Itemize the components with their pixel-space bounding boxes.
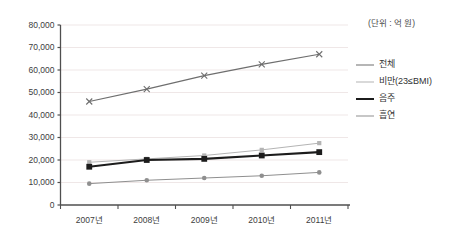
legend-line-swatch (356, 77, 374, 87)
y-axis-tick-label: 60,000 (9, 65, 55, 75)
legend-label: 음주 (379, 94, 395, 103)
x-axis-tick-label: 2010년 (232, 213, 292, 225)
chart-legend: 전체비만(23≤BMI)음주흡연 (356, 56, 456, 124)
series-0 (86, 51, 322, 104)
data-point-marker (317, 141, 321, 145)
chart-container: (단위 : 억 원) 80,00070,00060,00050,00040,00… (0, 0, 459, 233)
series-line (89, 54, 319, 101)
y-axis-tick-label: 10,000 (9, 177, 55, 187)
y-axis-tick-label: 40,000 (9, 110, 55, 120)
data-point-marker (259, 153, 265, 159)
series-3 (87, 170, 322, 186)
data-point-marker (260, 148, 264, 152)
data-point-marker (201, 156, 207, 162)
legend-label: 흡연 (379, 111, 395, 120)
y-axis-tick-label: 50,000 (9, 87, 55, 97)
series-2 (86, 149, 322, 169)
data-point-marker (87, 181, 92, 186)
data-point-marker (316, 149, 322, 155)
legend-line-swatch (356, 111, 374, 121)
legend-line-swatch (356, 60, 374, 70)
x-axis-tick-label: 2007년 (59, 213, 119, 225)
y-axis-tick-label: 30,000 (9, 132, 55, 142)
legend-item-2[interactable]: 음주 (356, 90, 456, 107)
x-axis-tick-label: 2009년 (174, 213, 234, 225)
x-axis-tick-label: 2011년 (289, 213, 349, 225)
y-axis-tick-label: 0 (9, 200, 55, 210)
legend-label: 전체 (379, 60, 395, 69)
y-axis-tick-label: 80,000 (9, 20, 55, 30)
x-axis-tick-label: 2008년 (117, 213, 177, 225)
y-axis-tick-label: 70,000 (9, 42, 55, 52)
data-point-marker (144, 157, 150, 163)
legend-item-3[interactable]: 흡연 (356, 107, 456, 124)
data-point-marker (144, 178, 149, 183)
legend-line-swatch (356, 94, 374, 104)
y-axis-tick-label: 20,000 (9, 155, 55, 165)
data-point-marker (317, 170, 322, 175)
legend-label: 비만(23≤BMI) (379, 77, 432, 86)
data-point-marker (87, 160, 91, 164)
legend-item-0[interactable]: 전체 (356, 56, 456, 73)
data-point-marker (202, 176, 207, 181)
legend-item-1[interactable]: 비만(23≤BMI) (356, 73, 456, 90)
data-point-marker (259, 173, 264, 178)
data-point-marker (86, 164, 92, 170)
